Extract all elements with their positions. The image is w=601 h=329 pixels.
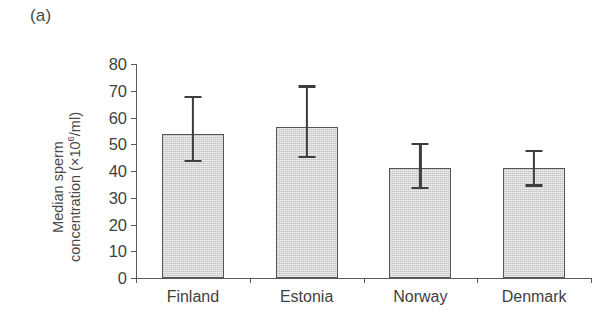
- error-bar-cap-upper-denmark: [526, 150, 543, 152]
- x-tick-mark: [364, 278, 365, 283]
- x-tick-mark: [250, 278, 251, 283]
- error-bar-line-denmark: [533, 150, 535, 185]
- panel-label: (a): [30, 6, 51, 26]
- error-bar-cap-upper-estonia: [298, 85, 315, 87]
- y-tick-label: 30: [109, 188, 127, 207]
- error-bar-cap-lower-estonia: [298, 156, 315, 158]
- error-bar-cap-lower-finland: [184, 160, 201, 162]
- y-tick-mark: [131, 225, 136, 226]
- error-bar-cap-lower-norway: [412, 187, 429, 189]
- y-tick-mark: [131, 118, 136, 119]
- y-tick-label: 80: [109, 55, 127, 74]
- y-axis-line: [136, 64, 137, 279]
- error-bar-line-norway: [419, 143, 421, 187]
- error-bar-cap-upper-finland: [184, 96, 201, 98]
- y-axis-title-exponent: 6: [65, 136, 76, 141]
- error-bar-line-finland: [192, 96, 194, 160]
- y-tick-mark: [131, 198, 136, 199]
- x-category-label-estonia: Estonia: [280, 288, 333, 306]
- y-tick-mark: [131, 144, 136, 145]
- y-axis-title-line-1: Median sperm: [50, 67, 67, 307]
- error-bar-cap-lower-denmark: [526, 184, 543, 186]
- y-tick-label: 40: [109, 162, 127, 181]
- y-tick-label: 70: [109, 81, 127, 100]
- y-tick-label: 50: [109, 135, 127, 154]
- y-tick-mark: [131, 91, 136, 92]
- error-bar-line-estonia: [306, 85, 308, 156]
- y-tick-mark: [131, 251, 136, 252]
- y-tick-label: 0: [118, 269, 127, 288]
- x-tick-mark: [477, 278, 478, 283]
- x-category-label-denmark: Denmark: [502, 288, 567, 306]
- y-tick-mark: [131, 171, 136, 172]
- plot-area: 01020304050607080 FinlandEstoniaNorwayDe…: [136, 64, 591, 278]
- y-axis-title: Median sperm concentration (×106/ml): [50, 67, 84, 307]
- x-category-label-norway: Norway: [393, 288, 447, 306]
- y-axis-title-unit-suffix: /ml): [67, 112, 83, 136]
- y-tick-label: 60: [109, 108, 127, 127]
- y-tick-label: 10: [109, 242, 127, 261]
- y-tick-label: 20: [109, 215, 127, 234]
- figure-panel-a: (a) Median sperm concentration (×106/ml)…: [0, 0, 601, 329]
- y-tick-mark: [131, 64, 136, 65]
- error-bar-cap-upper-norway: [412, 143, 429, 145]
- x-tick-mark: [591, 278, 592, 283]
- y-axis-title-line-2: concentration (×106/ml): [67, 67, 84, 307]
- y-axis-title-unit-prefix: concentration (×10: [67, 141, 83, 262]
- x-category-label-finland: Finland: [167, 288, 219, 306]
- x-tick-mark: [136, 278, 137, 283]
